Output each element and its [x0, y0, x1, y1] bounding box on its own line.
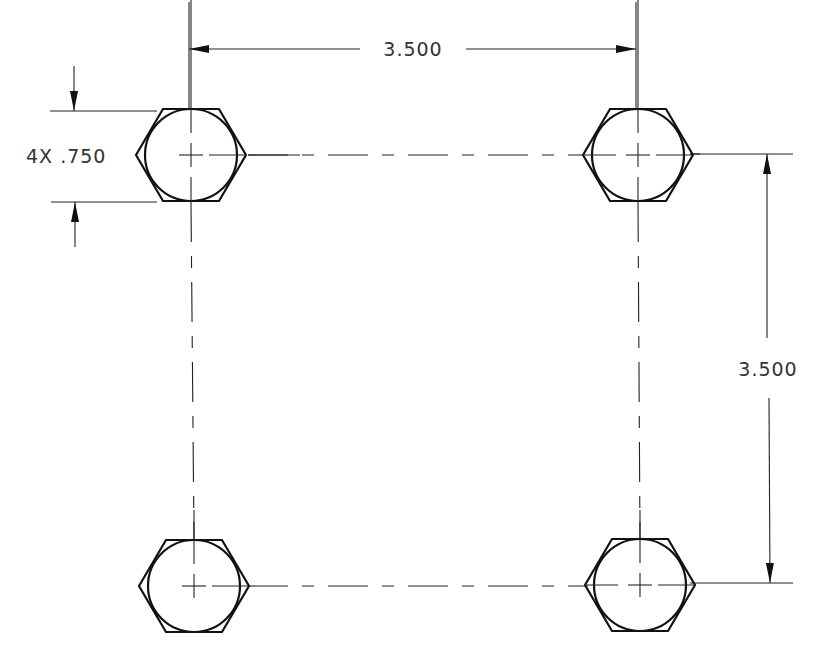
- vertical-dimension: 3.500: [690, 154, 798, 583]
- center-lines: [191, 0, 700, 586]
- centerline-left: [191, 202, 194, 540]
- centerline-right: [638, 202, 640, 540]
- dimension-line-bottom: [769, 398, 770, 583]
- hole-size-text: 4X .750: [26, 145, 106, 167]
- technical-drawing: 3.500 3.500 4X .750: [0, 0, 832, 671]
- hex-bolt-bottom-left: [139, 540, 249, 632]
- hex-bolt-bottom-right: [585, 539, 695, 631]
- horizontal-dimension-text: 3.500: [383, 38, 442, 60]
- hex-bolt-top-right: [583, 109, 693, 201]
- hex-bolt-top-left: [136, 109, 246, 201]
- vertical-dimension-text: 3.500: [738, 358, 797, 380]
- horizontal-dimension: 3.500: [189, 2, 636, 108]
